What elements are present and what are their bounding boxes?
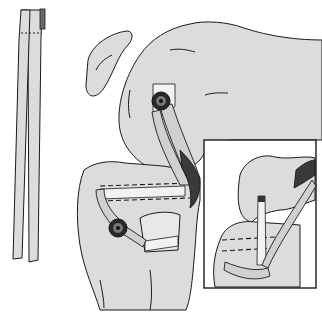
femoral-screw (152, 92, 170, 110)
knee-reconstruction-diagram (0, 0, 322, 320)
tibial-screw (109, 219, 127, 237)
tendon-graft-strip (13, 9, 45, 262)
inset-detail-panel (204, 140, 316, 288)
graft-suture-end (40, 9, 45, 29)
